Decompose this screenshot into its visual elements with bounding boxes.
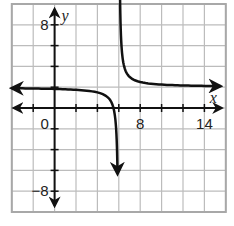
y-tick-label: −8 [31,182,48,199]
x-axis-label: x [209,89,217,106]
rational-function-graph: 08148−8 x y [0,0,234,226]
x-tick-label: 14 [196,115,213,132]
x-tick-label: 8 [136,115,144,132]
curve-left-branch [12,88,118,174]
y-tick-label: 8 [40,16,48,33]
curve-right-branch [120,0,221,86]
y-axis-label: y [60,7,70,25]
x-tick-label: 0 [40,115,48,132]
